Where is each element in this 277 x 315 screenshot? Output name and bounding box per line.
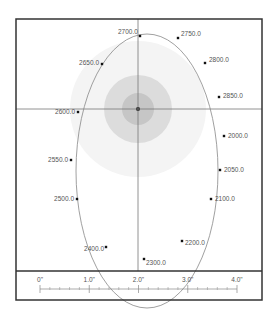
point-label: 2550.0 (48, 156, 68, 163)
point-label: 2700.0 (118, 28, 138, 35)
point-label: 2200.0 (185, 239, 205, 246)
orbit-point: 2850.0 (218, 92, 243, 99)
scale-label: 0" (37, 276, 44, 283)
point-marker (76, 198, 78, 200)
point-label: 2000.0 (228, 132, 248, 139)
point-label: 2300.0 (146, 259, 166, 266)
point-marker (219, 169, 221, 171)
point-label: 2650.0 (79, 59, 99, 66)
scale-bar: 0"1.0"2.0"3.0"4.0" (37, 276, 243, 293)
orbit-point: 2400.0 (84, 245, 107, 252)
orbit-diagram: 2700.02750.02800.02850.02000.02050.02100… (0, 0, 277, 315)
point-label: 2850.0 (223, 92, 243, 99)
point-label: 2800.0 (209, 56, 229, 63)
orbit-point: 2050.0 (219, 166, 244, 173)
point-marker (101, 63, 103, 65)
point-marker (143, 258, 145, 260)
point-marker (204, 62, 206, 64)
orbit-point: 2800.0 (204, 56, 229, 64)
scale-label: 3.0" (182, 276, 194, 283)
point-marker (70, 159, 72, 161)
orbit-point: 2200.0 (181, 239, 205, 246)
point-label: 2400.0 (84, 245, 104, 252)
point-label: 2750.0 (181, 30, 201, 37)
point-marker (177, 37, 179, 39)
orbit-point: 2000.0 (223, 132, 248, 139)
point-marker (210, 198, 212, 200)
point-marker (105, 246, 107, 248)
point-label: 2600.0 (55, 108, 75, 115)
scale-label: 4.0" (231, 276, 243, 283)
point-marker (77, 111, 79, 113)
scale-label: 2.0" (133, 276, 145, 283)
point-marker (223, 135, 225, 137)
orbit-point: 2550.0 (48, 156, 72, 163)
point-marker (139, 35, 141, 37)
orbit-point: 2750.0 (177, 30, 201, 39)
orbit-point: 2100.0 (210, 195, 235, 202)
point-label: 2050.0 (224, 166, 244, 173)
point-label: 2500.0 (54, 195, 74, 202)
point-marker (218, 96, 220, 98)
point-label: 2100.0 (215, 195, 235, 202)
orbit-point: 2500.0 (54, 195, 78, 202)
orbit-point: 2300.0 (143, 258, 166, 266)
point-marker (181, 240, 183, 242)
scale-label: 1.0" (84, 276, 96, 283)
